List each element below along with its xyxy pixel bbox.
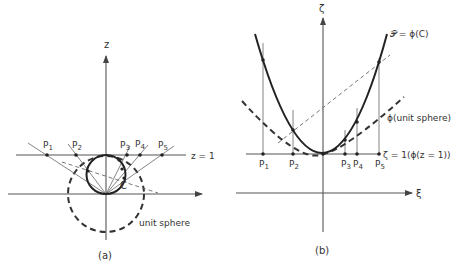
svg-text:P2: P2: [289, 159, 299, 171]
svg-text:P2: P2: [72, 140, 82, 152]
figure: z z = 1 C unit sphere (a) P1 P2 P3 P4 P5: [0, 0, 461, 270]
unit-sphere-label: unit sphere: [139, 218, 190, 228]
caption-a: (a): [98, 250, 112, 261]
panel-a: z z = 1 C unit sphere (a) P1 P2 P3 P4 P5: [8, 39, 215, 261]
parabola-phi-C: [255, 34, 387, 153]
parabola-label: 𝒫 = ϕ(C): [390, 29, 429, 39]
dashed-line-a: [62, 162, 158, 193]
svg-text:P1: P1: [259, 159, 269, 171]
svg-text:P4: P4: [353, 159, 363, 171]
zeta-axis-label: ζ: [319, 3, 324, 14]
z-axis-label: z: [104, 39, 109, 50]
caption-b: (b): [315, 245, 329, 256]
panel-b: ζ ξ 𝒫 = ϕ(C) ϕ(unit sphere) ζ = 1(ϕ(z = …: [236, 3, 451, 256]
zeta1-label: ζ = 1(ϕ(z = 1)): [383, 150, 451, 160]
svg-text:P1: P1: [43, 140, 53, 152]
phi-unit-sphere-label: ϕ(unit sphere): [387, 113, 451, 123]
z1-label: z = 1: [191, 151, 215, 161]
curve-C-label: C: [120, 180, 127, 191]
p-labels-b: P1 P2 P3 P4 P5: [259, 159, 385, 171]
svg-text:P5: P5: [158, 140, 168, 152]
svg-text:P5: P5: [375, 159, 385, 171]
xi-axis-label: ξ: [416, 188, 422, 199]
svg-text:P3: P3: [341, 159, 351, 171]
svg-text:P3: P3: [120, 140, 130, 152]
dashed-line-b: [278, 55, 390, 143]
svg-text:P4: P4: [135, 139, 145, 151]
